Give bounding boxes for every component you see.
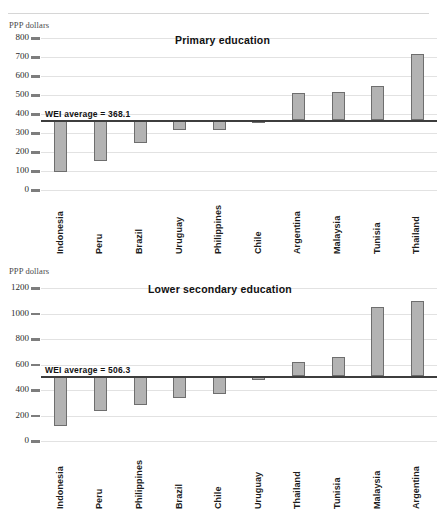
category-axis-primary: IndonesiaPeruBrazilUruguayPhilippinesChi…	[41, 190, 437, 256]
bar	[371, 307, 384, 376]
y-axis-tick-label: 400	[1, 109, 29, 118]
y-axis-tick-label-wrap: 200	[0, 411, 29, 420]
average-reference-label: WEI average = 368.1	[45, 109, 130, 119]
y-axis-tick-label-wrap: 100	[0, 166, 29, 175]
y-axis-tick-mark	[31, 56, 40, 59]
y-axis-tick-label-wrap: 0	[0, 436, 29, 445]
y-axis-tick-label-wrap: 300	[0, 128, 29, 137]
y-axis-tick-label-wrap: 600	[0, 71, 29, 80]
y-axis-tick-label-wrap: 700	[0, 52, 29, 61]
y-axis-tick-mark	[31, 338, 40, 341]
chart-lower-secondary-education: PPP dollars 120010008006004002000WEI ave…	[0, 266, 437, 512]
bar	[173, 376, 186, 397]
chart-primary-education: PPP dollars 8007006005004003002001000WEI…	[0, 20, 437, 260]
x-axis-category-label: Chile	[213, 486, 223, 509]
y-axis-tick-label-wrap: 800	[0, 33, 29, 42]
y-axis-tick-label: 200	[1, 411, 29, 420]
y-axis-tick-label: 700	[1, 52, 29, 61]
y-axis-tick-mark	[31, 132, 40, 135]
y-axis-tick-mark	[31, 287, 40, 290]
y-axis-tick-label-wrap: 0	[0, 185, 29, 194]
y-axis-tick-mark	[31, 75, 40, 78]
y-axis-tick-label: 300	[1, 128, 29, 137]
x-axis-category-label: Thailand	[292, 471, 302, 509]
x-axis-category-label: Peru	[94, 234, 104, 254]
chart-page: PPP dollars 8007006005004003002001000WEI…	[0, 0, 437, 512]
average-reference-label: WEI average = 506.3	[45, 365, 130, 375]
y-axis-tick-label-wrap: 400	[0, 109, 29, 118]
y-axis-tick-label-wrap: 200	[0, 147, 29, 156]
x-axis-category-label: Argentina	[411, 466, 421, 509]
y-axis-tick-mark	[31, 94, 40, 97]
x-axis-category-label: Indonesia	[55, 466, 65, 509]
bar	[411, 54, 424, 120]
y-axis-tick-label: 500	[1, 90, 29, 99]
bar	[134, 120, 147, 143]
y-axis-tick-label: 0	[1, 185, 29, 194]
chart-title: Primary education	[175, 34, 270, 46]
bar	[134, 376, 147, 404]
y-axis-tick-label-wrap: 400	[0, 385, 29, 394]
bar	[332, 357, 345, 376]
y-axis-tick-label-wrap: 800	[0, 334, 29, 343]
cut-header-text	[140, 0, 340, 8]
x-axis-category-label: Brazil	[174, 484, 184, 509]
x-axis-category-label: Philippines	[213, 205, 223, 254]
bar	[371, 86, 384, 120]
x-axis-category-label: Philippines	[134, 460, 144, 509]
y-axis-tick-label-wrap: 600	[0, 360, 29, 369]
y-axis-tick-mark	[31, 37, 40, 40]
y-axis-tick-mark	[31, 151, 40, 154]
y-axis-tick-mark	[31, 170, 40, 173]
x-axis-category-label: Peru	[94, 489, 104, 509]
y-axis-tick-label: 100	[1, 166, 29, 175]
y-axis-tick-label-wrap: 1200	[0, 283, 29, 292]
y-axis-tick-label: 600	[1, 71, 29, 80]
y-axis-tick-label: 600	[1, 360, 29, 369]
y-axis-tick-label: 0	[1, 436, 29, 445]
y-axis-tick-label: 800	[1, 334, 29, 343]
y-axis-tick-label: 800	[1, 33, 29, 42]
x-axis-category-label: Malaysia	[372, 471, 382, 509]
bar	[292, 93, 305, 120]
x-axis-category-label: Uruguay	[174, 217, 184, 254]
y-axis-tick-mark	[31, 415, 40, 418]
y-axis-tick-label-wrap: 500	[0, 90, 29, 99]
x-axis-category-label: Thailand	[411, 216, 421, 254]
y-axis-tick-label-wrap: 1000	[0, 309, 29, 318]
bar	[94, 120, 107, 160]
plot-area-primary: 8007006005004003002001000WEI average = 3…	[0, 38, 437, 190]
y-axis-tick-label: 1200	[1, 283, 29, 292]
y-axis-tick-mark	[31, 364, 40, 367]
average-reference-line	[41, 120, 437, 122]
bar	[54, 120, 67, 172]
bar	[213, 376, 226, 394]
x-axis-category-label: Uruguay	[253, 472, 263, 509]
bar	[332, 92, 345, 120]
y-axis-unit-label-primary: PPP dollars	[9, 20, 49, 30]
y-axis-unit-label-lower: PPP dollars	[9, 266, 49, 276]
y-axis-tick-label: 400	[1, 385, 29, 394]
y-axis-tick-mark	[31, 189, 40, 192]
average-reference-line	[41, 376, 437, 378]
category-axis-lower: IndonesiaPeruPhilippinesBrazilChileUrugu…	[41, 441, 437, 511]
plot-area-lower: 120010008006004002000WEI average = 506.3…	[0, 288, 437, 441]
bar	[94, 376, 107, 411]
x-axis-category-label: Malaysia	[332, 216, 342, 254]
y-axis-tick-mark	[31, 113, 40, 116]
header-divider	[8, 13, 429, 14]
bar	[54, 376, 67, 425]
chart-title: Lower secondary education	[148, 283, 292, 295]
x-axis-category-label: Argentina	[292, 211, 302, 254]
y-axis-tick-mark	[31, 440, 40, 443]
x-axis-category-label: Tunisia	[332, 477, 342, 509]
x-axis-category-label: Tunisia	[372, 222, 382, 254]
x-axis-category-label: Indonesia	[55, 211, 65, 254]
y-axis-tick-mark	[31, 389, 40, 392]
y-axis-tick-label: 1000	[1, 309, 29, 318]
x-axis-category-label: Chile	[253, 231, 263, 254]
y-axis-tick-label: 200	[1, 147, 29, 156]
y-axis-tick-mark	[31, 313, 40, 316]
bar	[411, 301, 424, 377]
x-axis-category-label: Brazil	[134, 229, 144, 254]
